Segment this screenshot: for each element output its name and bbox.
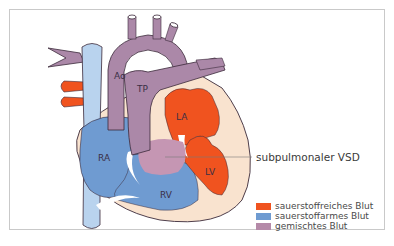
label-pulmonary-trunk: TP xyxy=(137,85,148,94)
swatch-mixed xyxy=(256,223,271,230)
legend-item-mixed: gemischtes Blut xyxy=(256,221,373,231)
arch-branches xyxy=(128,17,178,42)
legend: sauerstoffreiches Blut sauerstoffarmes B… xyxy=(256,201,373,231)
label-right-ventricle: RV xyxy=(160,191,172,200)
swatch-deoxygenated xyxy=(256,213,271,220)
legend-label-mixed: gemischtes Blut xyxy=(275,221,347,231)
label-left-atrium: LA xyxy=(176,113,187,122)
legend-label-deoxygenated: sauerstoffarmes Blut xyxy=(275,211,369,221)
legend-item-oxygenated: sauerstoffreiches Blut xyxy=(256,201,373,211)
swatch-oxygenated xyxy=(256,203,271,210)
legend-label-oxygenated: sauerstoffreiches Blut xyxy=(275,201,373,211)
vsd-callout-label: subpulmonaler VSD xyxy=(256,152,360,163)
label-aorta: Ao xyxy=(114,72,126,81)
pulmonary-veins-right xyxy=(61,81,85,107)
label-left-ventricle: LV xyxy=(205,168,215,177)
legend-item-deoxygenated: sauerstoffarmes Blut xyxy=(256,211,373,221)
left-pulmonary-branch xyxy=(48,48,84,67)
label-right-atrium: RA xyxy=(98,154,110,163)
